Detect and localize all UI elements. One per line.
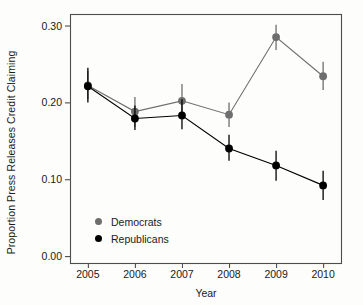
legend-item-republicans: Republicans: [95, 230, 169, 247]
data-point: [84, 82, 92, 90]
series-democrats: [84, 25, 327, 127]
data-point: [225, 145, 233, 153]
legend-item-democrats: Democrats: [95, 213, 169, 230]
legend-label-republicans: Republicans: [111, 233, 169, 245]
data-point: [131, 115, 139, 123]
data-point: [178, 112, 186, 120]
series-republicans: [84, 68, 327, 200]
data-point: [272, 33, 280, 41]
chart-figure: Proportion Press Releases Credit Claimin…: [0, 0, 363, 305]
data-point: [272, 161, 280, 169]
data-point: [225, 111, 233, 119]
legend-marker-republicans: [95, 235, 102, 242]
data-point: [319, 181, 327, 189]
data-point: [319, 72, 327, 80]
legend-marker-democrats: [95, 218, 102, 225]
plot-area: [0, 0, 363, 305]
legend-label-democrats: Democrats: [111, 216, 162, 228]
chart-legend: Democrats Republicans: [95, 213, 169, 247]
